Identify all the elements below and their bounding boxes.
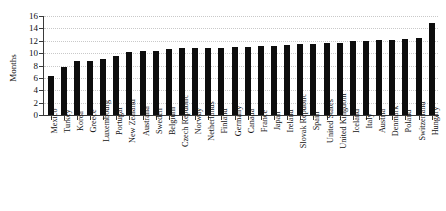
y-axis-tick xyxy=(39,16,43,17)
bar xyxy=(402,39,408,115)
bar xyxy=(310,44,316,115)
bar-slot xyxy=(202,16,215,115)
x-label-slot: United Kingdom xyxy=(333,121,346,209)
x-label-slot: Luxembourg xyxy=(97,121,110,209)
bar xyxy=(218,48,224,115)
y-axis-tick-label: 8 xyxy=(34,61,39,70)
bar xyxy=(271,46,277,115)
x-label-slot: Poland xyxy=(399,121,412,209)
bar xyxy=(258,46,264,115)
y-axis-tick xyxy=(39,90,43,91)
bar-slot xyxy=(83,16,96,115)
bar xyxy=(389,40,395,115)
y-axis-tick xyxy=(39,53,43,54)
bar xyxy=(153,51,159,115)
x-label-slot: Norway xyxy=(189,121,202,209)
y-axis-tick-label: 10 xyxy=(29,49,38,58)
x-label-slot: Mexico xyxy=(44,121,57,209)
y-axis-tick-label: 16 xyxy=(29,12,38,21)
y-axis-title-text: Months xyxy=(8,54,18,82)
bar-slot xyxy=(149,16,162,115)
x-label-slot: Australia xyxy=(136,121,149,209)
x-label-slot: Portugal xyxy=(110,121,123,209)
bar xyxy=(87,61,93,115)
bar-slot xyxy=(307,16,320,115)
x-label-slot: Sweden xyxy=(149,121,162,209)
bar-slot xyxy=(346,16,359,115)
bar-slot xyxy=(70,16,83,115)
bar-slot xyxy=(425,16,438,115)
y-axis-tick-label: 4 xyxy=(34,86,39,95)
bar xyxy=(61,67,67,115)
y-axis-tick-label: 12 xyxy=(29,36,38,45)
x-label-slot: Czech Republic xyxy=(175,121,188,209)
y-axis-tick xyxy=(39,28,43,29)
x-label-slot: France xyxy=(254,121,267,209)
x-label-slot: Switzerland xyxy=(412,121,425,209)
y-axis-tick-label: 0 xyxy=(34,111,39,120)
bar-slot xyxy=(44,16,57,115)
bar xyxy=(166,49,172,115)
x-label-slot: New Zealand xyxy=(123,121,136,209)
bar xyxy=(284,45,290,115)
x-label-slot: Belgium xyxy=(162,121,175,209)
y-axis-tick xyxy=(39,41,43,42)
bar-slot xyxy=(254,16,267,115)
y-axis-tick xyxy=(39,115,43,116)
bar-slot xyxy=(189,16,202,115)
x-label-slot: Denmark xyxy=(386,121,399,209)
bar-slot xyxy=(386,16,399,115)
x-label-slot: Greece xyxy=(83,121,96,209)
x-label-slot: Turkey xyxy=(57,121,70,209)
bar xyxy=(245,47,251,115)
x-label-slot: Iceland xyxy=(346,121,359,209)
bar xyxy=(74,61,80,115)
x-label-slot: Netherlands xyxy=(202,121,215,209)
x-label-slot: Slovak Republic xyxy=(294,121,307,209)
y-axis-tick-label: 2 xyxy=(34,98,39,107)
y-axis-tick-label: 6 xyxy=(34,73,39,82)
bar-slot xyxy=(228,16,241,115)
x-label-slot: United States xyxy=(320,121,333,209)
bar-slot xyxy=(215,16,228,115)
bar-slot xyxy=(110,16,123,115)
x-label-slot: Korea xyxy=(70,121,83,209)
bar-slot xyxy=(241,16,254,115)
bar-slot xyxy=(399,16,412,115)
y-axis-tick xyxy=(39,66,43,67)
x-label-slot: Germany xyxy=(228,121,241,209)
x-label-slot: Canada xyxy=(241,121,254,209)
y-axis-title: Months xyxy=(6,28,20,108)
bar-slot xyxy=(281,16,294,115)
x-label-slot: Japan xyxy=(267,121,280,209)
bar-chart-figure: Months 0246810121416 MexicoTurkeyKoreaGr… xyxy=(0,0,446,211)
x-label-slot: Spain xyxy=(307,121,320,209)
y-axis-tick xyxy=(39,78,43,79)
bar-slot xyxy=(412,16,425,115)
x-label-slot: Finland xyxy=(215,121,228,209)
bar xyxy=(350,41,356,115)
bar-slot xyxy=(136,16,149,115)
bar-slot xyxy=(267,16,280,115)
x-label-slot: Italy xyxy=(359,121,372,209)
x-label-slot: Ireland xyxy=(281,121,294,209)
bar xyxy=(376,40,382,115)
bar xyxy=(429,23,435,115)
x-label-slot: Austria xyxy=(373,121,386,209)
bar-slot xyxy=(359,16,372,115)
x-axis-labels: MexicoTurkeyKoreaGreeceLuxembourgPortuga… xyxy=(44,121,438,209)
x-axis-label: Hungary xyxy=(432,107,440,136)
bar-slot xyxy=(373,16,386,115)
bar xyxy=(192,48,198,115)
x-label-slot: Hungary xyxy=(425,121,438,209)
bar-slot xyxy=(162,16,175,115)
y-axis-tick xyxy=(39,103,43,104)
bar xyxy=(363,41,369,115)
bar-slot xyxy=(57,16,70,115)
y-axis-tick-label: 14 xyxy=(29,24,38,33)
